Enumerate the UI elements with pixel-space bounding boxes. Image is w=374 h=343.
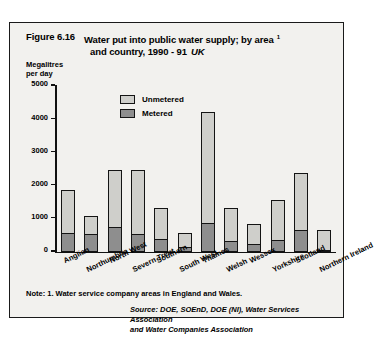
bar-column[interactable] [294, 173, 308, 252]
x-axis-label: Welsh [225, 256, 249, 274]
y-axis-tick: 0 [51, 250, 55, 251]
bar-column[interactable] [108, 170, 122, 251]
x-axis-line [55, 252, 336, 254]
figure-frame: Figure 6.16 Water put into public water … [9, 22, 344, 318]
y-axis-tick-label: 5000 [31, 79, 48, 88]
bar-column[interactable] [154, 208, 168, 251]
y-axis-tick: 5000 [51, 84, 55, 85]
y-axis-title: Megalitres per day [26, 60, 63, 78]
figure-title-main: Water put into public water supply; by a… [84, 34, 274, 45]
y-axis-tick-label: 0 [44, 245, 48, 254]
bar-segment-unmetered [294, 173, 308, 231]
figure-number: Figure 6.16 [26, 31, 75, 43]
bar-segment-unmetered [271, 200, 285, 240]
bar-segment-unmetered [108, 170, 122, 227]
bar-column[interactable] [247, 224, 261, 252]
bar-segment-unmetered [84, 216, 98, 235]
figure-title-row-1: Figure 6.16 Water put into public water … [26, 31, 333, 46]
bar-segment-unmetered [201, 112, 215, 223]
bar-segment-unmetered [131, 170, 145, 234]
bar-segment-metered [61, 233, 75, 252]
figure-title-subtitle: and country, 1990 - 91 [90, 46, 187, 57]
bar-segment-metered [201, 223, 215, 252]
y-axis-tick: 1000 [51, 217, 55, 218]
bar-group [57, 86, 337, 252]
figure-title-region: UK [191, 46, 205, 57]
y-axis-tick: 2000 [51, 184, 55, 185]
x-axis-labels: AnglianNorthumbriaNorth WestSevern Trent… [55, 255, 336, 307]
y-axis-tick-label: 3000 [31, 146, 48, 155]
figure-title-footnote-ref: 1 [277, 34, 280, 40]
bar-segment-unmetered [154, 208, 168, 239]
figure-title-row-2: and country, 1990 - 91UK [90, 46, 333, 58]
bar-column[interactable] [201, 112, 215, 251]
y-axis-tick: 4000 [51, 118, 55, 119]
plot-area: 010002000300040005000 [55, 85, 336, 253]
y-axis-tick-label: 1000 [31, 212, 48, 221]
y-axis-tick-label: 2000 [31, 179, 48, 188]
bar-segment-unmetered [61, 190, 75, 232]
figure-title-text: Water put into public water supply; by a… [84, 31, 280, 46]
figure-note: Note: 1. Water service company areas in … [26, 289, 242, 298]
figure-source-line-2: and Water Companies Association [130, 325, 343, 335]
y-axis-tick-label: 4000 [31, 113, 48, 122]
figure-source-line-1: Source: DOE, SOEnD, DOE (NI), Water Serv… [130, 305, 343, 325]
bar-column[interactable] [61, 190, 75, 251]
figure-title-block: Figure 6.16 Water put into public water … [26, 31, 333, 58]
bar-segment-unmetered [224, 208, 238, 241]
y-axis-title-line-2: per day [26, 69, 63, 78]
y-axis-title-line-1: Megalitres [26, 60, 63, 69]
figure-source: Source: DOE, SOEnD, DOE (NI), Water Serv… [130, 305, 343, 335]
y-axis-tick: 3000 [51, 151, 55, 152]
bar-segment-metered [294, 230, 308, 251]
bar-segment-unmetered [247, 224, 261, 244]
